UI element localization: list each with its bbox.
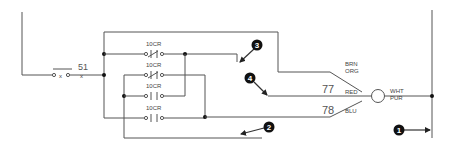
contact-row-4: 10CR xyxy=(104,105,205,122)
wire-77-red: 77 RED xyxy=(268,83,362,96)
marker-2: 2 xyxy=(241,122,275,135)
connector-label-brn: BRN xyxy=(345,61,358,67)
output-label-pur: PUR xyxy=(390,95,403,101)
wire-color-label: RED xyxy=(345,89,358,95)
contact-label: 10CR xyxy=(146,62,162,68)
left-feed-wire xyxy=(22,12,52,75)
switch-label: 51 xyxy=(78,62,88,72)
junction-dot xyxy=(102,73,106,77)
switch-x-mark-2: x xyxy=(80,73,83,79)
wire-number: 78 xyxy=(322,104,334,116)
wire-color-label: BLU xyxy=(345,108,357,114)
connector-label-org: ORG xyxy=(345,68,359,74)
marker-1: 1 xyxy=(394,125,431,136)
svg-text:3: 3 xyxy=(255,41,260,50)
contact-row-3: 10CR xyxy=(124,54,185,100)
svg-text:4: 4 xyxy=(248,74,253,83)
contact-row-1: 10CR xyxy=(104,41,237,62)
switch-x-mark: x xyxy=(59,73,62,79)
schematic-canvas: x x 51 10CR 10CR xyxy=(0,0,451,147)
wire-number: 77 xyxy=(322,83,334,95)
splice-circle xyxy=(372,90,385,103)
output-label-wht: WHT xyxy=(390,88,404,94)
svg-text:2: 2 xyxy=(267,123,272,132)
svg-text:1: 1 xyxy=(397,126,402,135)
contact-label: 10CR xyxy=(146,105,162,111)
marker-3: 3 xyxy=(240,40,263,63)
lower-return-wire xyxy=(124,75,262,138)
junction-dot xyxy=(430,94,434,98)
contact-label: 10CR xyxy=(146,83,162,89)
marker-4: 4 xyxy=(245,73,268,96)
contact-label: 10CR xyxy=(146,41,162,47)
wire-78-blu: 78 BLU xyxy=(205,101,362,117)
switch-51: x x 51 xyxy=(52,62,104,79)
contact-row-2: 10CR xyxy=(124,62,205,117)
